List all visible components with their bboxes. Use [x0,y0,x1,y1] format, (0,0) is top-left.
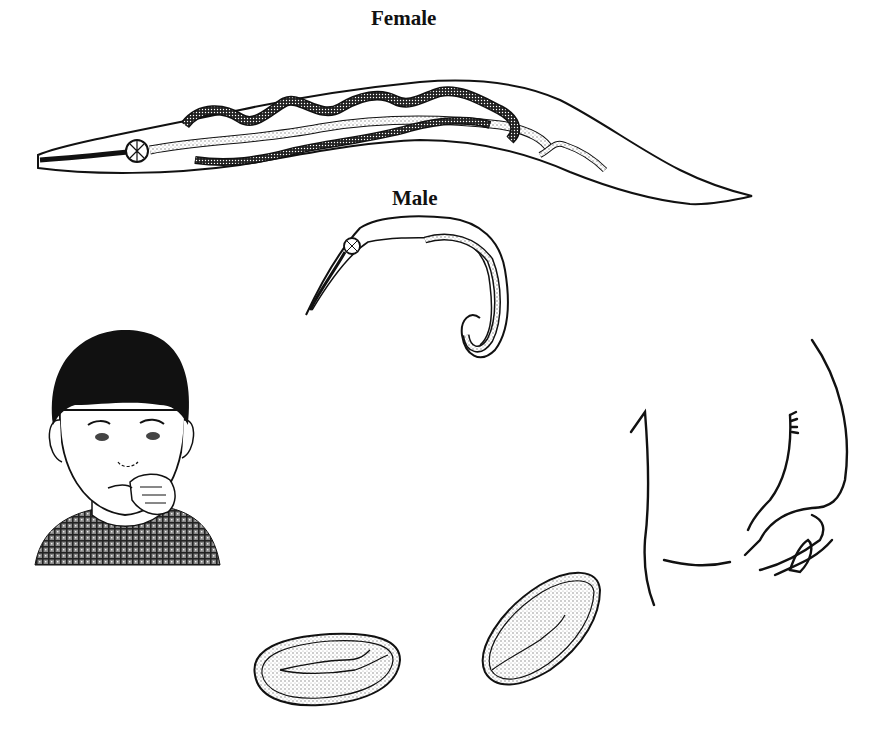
lifecycle-illustration [0,0,881,732]
egg-right [483,573,600,685]
child-illustration [35,330,220,565]
male-worm [306,216,508,357]
female-worm [38,81,752,205]
perianal-region [631,340,847,605]
egg-left [254,634,400,706]
